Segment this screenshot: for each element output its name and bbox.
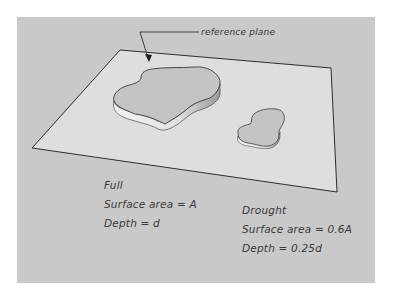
reference-plane-label: reference plane — [201, 27, 275, 37]
full-title: Full — [104, 179, 123, 191]
drought-title: Drought — [242, 204, 286, 216]
drought-surface-area: Surface area = 0.6A — [242, 223, 352, 235]
drought-depth: Depth = 0.25d — [242, 242, 322, 254]
scene-illustration — [0, 0, 393, 299]
full-surface-area: Surface area = A — [104, 198, 197, 210]
full-depth: Depth = d — [104, 217, 160, 229]
